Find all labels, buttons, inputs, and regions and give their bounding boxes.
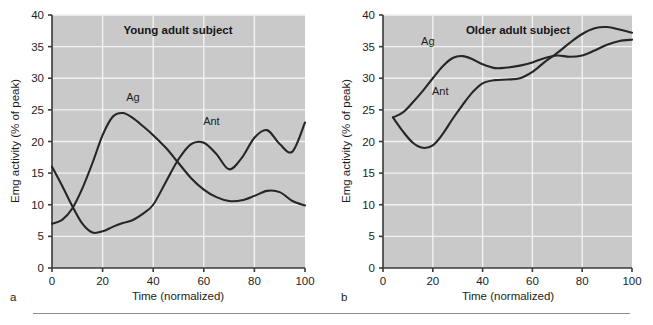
chart-panel-b: 0510152025303540 020406080100 Ag Ant Old…: [330, 0, 653, 325]
emg-activity-figure: 0510152025303540 020406080100 Ag Ant You…: [0, 0, 653, 325]
y-axis-title-a: Emg activity (% of peak): [9, 79, 21, 203]
x-tick-labels-a: 020406080100: [49, 275, 315, 287]
panel-title-b: Older adult subject: [466, 24, 570, 36]
x-tick-label: 40: [147, 275, 160, 287]
x-tick-label: 100: [295, 275, 314, 287]
y-tick-label: 0: [369, 262, 375, 274]
y-tick-label: 10: [362, 199, 375, 211]
y-tick-label: 35: [362, 41, 375, 53]
panel-a-svg: 0510152025303540 020406080100 Ag Ant You…: [0, 0, 330, 325]
y-axis-title-b: Emg activity (% of peak): [340, 79, 352, 203]
y-tick-label: 30: [362, 72, 375, 84]
y-tick-label: 30: [31, 72, 44, 84]
x-tick-label: 60: [197, 275, 210, 287]
x-axis-title-b: Time (normalized): [462, 290, 554, 302]
x-tick-label: 80: [248, 275, 261, 287]
series-label-ant-b: Ant: [432, 85, 449, 97]
x-tick-labels-b: 020406080100: [380, 275, 642, 287]
y-tick-label: 40: [31, 9, 44, 21]
panel-letter-b: b: [341, 291, 347, 303]
y-tick-label: 15: [31, 167, 44, 179]
x-tick-label: 0: [380, 275, 386, 287]
y-tick-label: 5: [38, 230, 44, 242]
y-tick-label: 5: [369, 230, 375, 242]
y-tick-label: 15: [362, 167, 375, 179]
y-tick-label: 35: [31, 41, 44, 53]
x-tick-label: 40: [476, 275, 489, 287]
x-tick-label: 0: [49, 275, 55, 287]
panel-letter-a: a: [10, 291, 17, 303]
x-tick-label: 80: [576, 275, 589, 287]
series-label-ant-a: Ant: [203, 115, 220, 127]
series-label-ag-a: Ag: [126, 91, 139, 103]
y-tick-label: 20: [31, 136, 44, 148]
series-label-ag-b: Ag: [421, 35, 434, 47]
y-tick-label: 25: [362, 104, 375, 116]
chart-panel-a: 0510152025303540 020406080100 Ag Ant You…: [0, 0, 330, 325]
y-tick-label: 10: [31, 199, 44, 211]
figure-bottom-rule: [33, 313, 630, 314]
y-tick-label: 20: [362, 136, 375, 148]
panel-b-svg: 0510152025303540 020406080100 Ag Ant Old…: [330, 0, 653, 325]
x-tick-label: 20: [426, 275, 439, 287]
y-tick-label: 25: [31, 104, 44, 116]
y-tick-label: 40: [362, 9, 375, 21]
x-tick-label: 60: [526, 275, 539, 287]
y-tick-labels-b: 0510152025303540: [362, 9, 375, 274]
panel-title-a: Young adult subject: [123, 24, 232, 36]
x-axis-title-a: Time (normalized): [132, 290, 224, 302]
y-tick-labels-a: 0510152025303540: [31, 9, 44, 274]
y-tick-label: 0: [38, 262, 44, 274]
x-tick-label: 20: [96, 275, 109, 287]
x-tick-label: 100: [622, 275, 641, 287]
